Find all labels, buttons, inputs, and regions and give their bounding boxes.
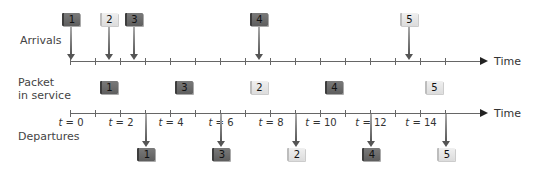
departures-axis-tick	[420, 110, 421, 117]
departures-axis-tick	[245, 110, 246, 117]
arrivals-axis-tick	[345, 58, 346, 65]
departure-arrow-icon	[220, 114, 222, 142]
arrivals-axis-tick	[320, 58, 321, 65]
arrival-arrow-icon	[108, 27, 110, 55]
departures-axis-arrowhead-icon	[480, 109, 488, 117]
departures-time-label: Time	[494, 107, 521, 120]
departures-time-axis	[70, 113, 480, 114]
arrival-packet-2: 2	[100, 13, 118, 26]
departure-arrow-icon	[445, 114, 447, 142]
departure-arrow-icon	[145, 114, 147, 142]
arrivals-time-axis	[70, 61, 480, 62]
arrival-packet-4: 4	[250, 13, 268, 26]
departure-packet-3: 3	[212, 148, 230, 161]
departures-axis-tick	[345, 110, 346, 117]
arrivals-axis-tick	[220, 58, 221, 65]
arrival-packet-3: 3	[125, 13, 143, 26]
departures-axis-tick	[70, 110, 71, 117]
arrivals-axis-tick	[245, 58, 246, 65]
arrivals-label: Arrivals	[20, 34, 61, 47]
departures-axis-tick	[95, 110, 96, 117]
arrival-arrow-icon	[408, 27, 410, 55]
in-service-packet-1: 1	[100, 81, 118, 94]
in-service-packet-2: 2	[250, 81, 268, 94]
arrivals-axis-tick	[270, 58, 271, 65]
departure-packet-2: 2	[287, 148, 305, 161]
arrival-packet-5: 5	[400, 13, 418, 26]
arrivals-axis-tick	[420, 58, 421, 65]
time-tick-label: t = 2	[108, 117, 133, 128]
arrivals-axis-tick	[120, 58, 121, 65]
arrivals-axis-tick	[395, 58, 396, 65]
time-tick-label: t = 8	[258, 117, 283, 128]
in-service-packet-4: 4	[325, 81, 343, 94]
arrivals-axis-arrowhead-icon	[480, 57, 488, 65]
time-tick-label: t = 14	[405, 117, 436, 128]
arrival-arrow-icon	[133, 27, 135, 55]
departures-axis-tick	[120, 110, 121, 117]
in-service-packet-5: 5	[425, 81, 443, 94]
arrival-arrow-icon	[258, 27, 260, 55]
arrivals-axis-tick	[370, 58, 371, 65]
departure-arrow-icon	[295, 114, 297, 142]
departure-packet-4: 4	[362, 148, 380, 161]
departures-axis-tick	[395, 110, 396, 117]
arrivals-axis-tick	[145, 58, 146, 65]
arrival-packet-1: 1	[62, 13, 80, 26]
packet-in-service-label-line2: in service	[18, 89, 71, 102]
time-tick-label: t = 10	[305, 117, 336, 128]
departure-arrow-icon	[370, 114, 372, 142]
in-service-packet-3: 3	[175, 81, 193, 94]
departure-packet-1: 1	[137, 148, 155, 161]
time-tick-label: t = 0	[58, 117, 83, 128]
departures-axis-tick	[195, 110, 196, 117]
departures-axis-tick	[270, 110, 271, 117]
arrivals-time-label: Time	[494, 55, 521, 68]
departures-axis-tick	[320, 110, 321, 117]
arrivals-axis-tick	[445, 58, 446, 65]
arrivals-axis-tick	[195, 58, 196, 65]
arrivals-axis-tick	[170, 58, 171, 65]
departure-packet-5: 5	[437, 148, 455, 161]
arrival-arrow-icon	[70, 27, 72, 55]
departures-axis-tick	[170, 110, 171, 117]
time-tick-label: t = 4	[158, 117, 183, 128]
departures-label: Departures	[18, 130, 80, 143]
arrivals-axis-tick	[295, 58, 296, 65]
arrivals-axis-tick	[95, 58, 96, 65]
packet-in-service-label-line1: Packet	[18, 76, 54, 89]
